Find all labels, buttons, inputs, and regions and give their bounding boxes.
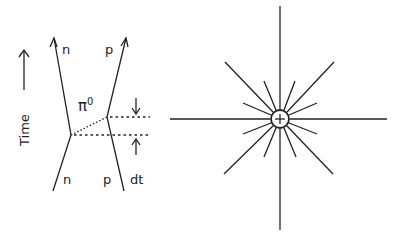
time-axis: Time [17, 50, 32, 147]
field-line [264, 81, 276, 110]
neutron-worldline [53, 38, 71, 191]
dt-label: dt [130, 172, 143, 187]
field-line [224, 126, 273, 174]
field-line [284, 128, 296, 157]
pion-exchange-line [71, 117, 107, 135]
incoming-neutron-label: n [63, 172, 71, 187]
diagram-canvas: Time n p n p dt π0 [0, 0, 402, 242]
proton-worldline [107, 38, 126, 191]
neutron-arrow-icon [50, 38, 57, 47]
outgoing-proton-label: p [105, 42, 113, 57]
pion-label: π0 [78, 96, 93, 115]
feynman-diagram: n p n p dt π0 [50, 38, 150, 191]
incoming-proton-label: p [103, 172, 111, 187]
time-label: Time [17, 114, 32, 147]
outgoing-neutron-label: n [62, 42, 70, 57]
field-line [287, 126, 333, 174]
field-diagram [170, 6, 387, 230]
field-line [287, 62, 334, 112]
